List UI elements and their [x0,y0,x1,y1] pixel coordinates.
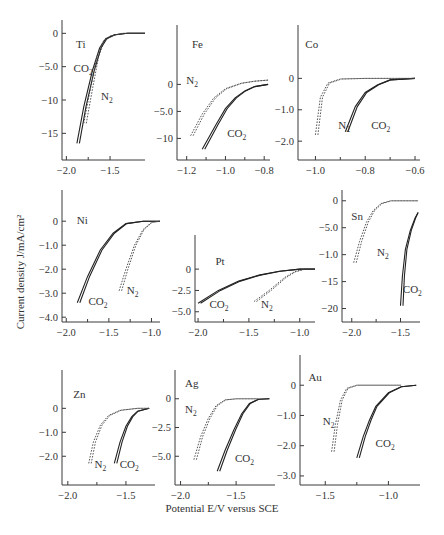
y-tick-label: −15 [42,128,58,139]
y-tick-label: −5.0 [172,306,191,317]
series-n2-line [119,221,160,291]
label-n2: N2 [101,90,113,105]
y-tick-label: 0 [168,79,173,90]
y-tick-label: −1.0 [319,249,338,260]
x-tick-label: −1.5 [101,165,120,176]
panel-fe: −1.2−1.0−0.80−5.0−10FeCO2N2 [154,25,274,176]
series-co2-line [117,408,149,463]
y-tick-label: −5.0 [319,222,338,233]
x-tick-label: −2.0 [189,327,208,338]
label-n2: N2 [323,415,335,430]
series-n2-line [315,78,415,134]
y-tick-label: −2.0 [39,264,58,275]
y-tick-label: −10 [157,133,173,144]
panel-au: −1.5−1.00−1.0−2.0−3.0AuCO2N2 [277,355,420,501]
y-tick-label: −1.0 [39,240,58,251]
y-tick-label: −5.0 [154,106,173,117]
x-tick-label: −1.5 [391,327,410,338]
x-tick-label: −1.5 [316,490,335,501]
label-n2: N2 [186,74,198,89]
series-co2-line [205,84,268,149]
series-co2-line [77,221,160,303]
panel-ni: −2.0−1.5−1.00−1.0−2.0−3.0−4.0NiCO2N2 [39,190,161,338]
x-tick-label: −1.5 [227,490,246,501]
y-tick-label: −2.5 [152,422,171,433]
x-tick-label: −0.8 [255,165,274,176]
label-co2: CO2 [403,283,422,298]
y-tick-label: −2.0 [39,451,58,462]
y-tick-label: −3.0 [39,288,58,299]
label-co2: CO2 [74,62,93,77]
label-n2: N2 [185,403,197,418]
label-n2: N2 [127,284,139,299]
series-n2-line [91,408,149,463]
label-co2: CO2 [376,437,395,452]
label-n2: N2 [261,298,273,313]
figure-canvas: −2.0−1.50−5.0−10−15TiCO2N2−1.2−1.0−0.80−… [0,0,444,535]
x-tick-label: −2.0 [57,327,76,338]
panel-label: Au [308,371,322,383]
panel-label: Fe [192,38,203,50]
y-tick-label: 0 [186,264,191,275]
x-tick-label: −1.0 [290,327,309,338]
y-tick-label: −1.0 [277,410,296,421]
label-co2: CO2 [209,298,228,313]
label-co2: CO2 [120,458,139,473]
y-tick-label: 0 [289,73,294,84]
y-tick-label: −5.0 [39,61,58,72]
label-co2: CO2 [227,127,246,142]
series-co2-line [77,33,145,143]
panel-label: Zn [73,388,86,400]
x-tick-label: −1.5 [116,490,135,501]
y-tick-label: 0 [53,216,58,227]
panel-label: Pt [215,255,224,267]
y-tick-label: 0 [53,28,58,39]
panel-co: −1.0−0.8−0.60−1.0−2.0CoCO2N2 [275,25,425,176]
y-tick-label: −20 [322,303,338,314]
series-co2-line [79,33,145,143]
panel-label: Sn [351,210,363,222]
x-tick-label: −1.0 [306,165,325,176]
y-tick-label: −15 [322,276,338,287]
series-n2-line [334,385,401,452]
x-tick-label: −1.5 [239,327,258,338]
panel-sn: −2.0−1.50−5.0−1.0−15−20SnCO2N2 [319,190,422,338]
y-tick-label: −3.0 [277,470,296,481]
y-tick-label: −10 [42,95,58,106]
series-n2-line [122,221,160,291]
y-tick-label: −1.0 [275,104,294,115]
series-co2-line [202,84,268,149]
panel-ti: −2.0−1.50−5.0−10−15TiCO2N2 [39,20,145,176]
x-axis-title-text: Potential E/V versus SCE [165,502,278,514]
label-co2: CO2 [235,452,254,467]
label-n2: N2 [95,458,107,473]
label-co2: CO2 [371,119,390,134]
panel-zn: −2.0−1.50−1.0−2.0ZnCO2N2 [39,370,155,501]
x-tick-label: −1.5 [99,327,118,338]
label-n2: N2 [338,119,350,134]
panel-label: Ag [185,377,199,389]
series-co2-line [80,221,160,303]
x-tick-label: −1.2 [177,165,196,176]
panel-label: Ti [76,38,85,50]
panel-pt: −2.0−1.5−1.00−2.5−5.0PtCO2N2 [172,235,315,338]
y-tick-label: −2.5 [172,285,191,296]
label-n2: N2 [377,246,389,261]
label-co2: CO2 [88,295,107,310]
y-tick-label: −5.0 [152,451,171,462]
y-tick-label: −4.0 [39,312,58,323]
series-n2-line [194,399,258,460]
y-tick-label: −1.0 [39,427,58,438]
x-tick-label: −1.0 [216,165,235,176]
y-tick-label: 0 [53,403,58,414]
series-n2-line [86,33,145,123]
y-tick-label: −2.0 [275,136,294,147]
y-tick-label: 0 [166,393,171,404]
series-co2-line [114,408,149,463]
panel-ag: −2.0−1.50−2.5−5.0AgCO2N2 [152,370,275,501]
y-axis-title-text: Current density J/mA/cm² [14,214,26,329]
x-tick-label: −0.8 [356,165,375,176]
x-tick-label: −2.0 [58,490,77,501]
x-tick-label: −2.0 [342,327,361,338]
x-tick-label: −2.0 [171,490,190,501]
